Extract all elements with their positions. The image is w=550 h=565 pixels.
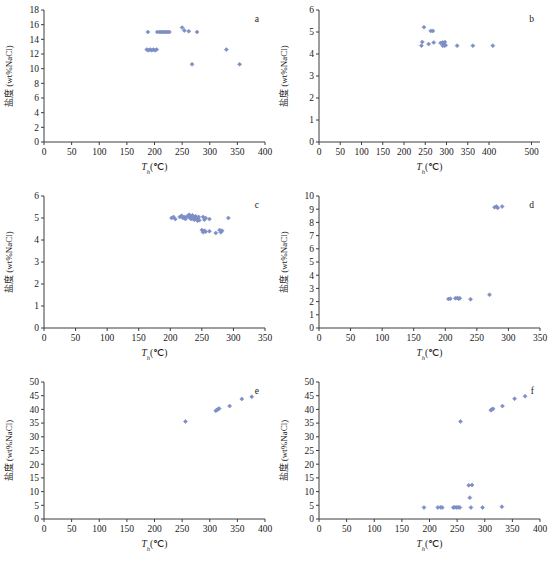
x-tick-label: 400 — [258, 147, 273, 157]
svg-text:Th(℃): Th(℃) — [142, 539, 168, 552]
y-axis-ticks-c: 0123456 — [34, 191, 44, 333]
x-tick-label: 250 — [470, 333, 485, 343]
y-tick-label: 3 — [309, 284, 314, 294]
scatter-plot-c: 0123456050100150200250300350Th(℃)盐度 (wt%… — [0, 186, 275, 372]
data-point — [420, 40, 424, 44]
x-tick-label: 150 — [120, 147, 135, 157]
x-axis-title-d: Th(℃) — [417, 348, 443, 361]
data-series-f — [422, 394, 527, 509]
y-tick-label: 4 — [309, 49, 314, 59]
chart-panel-f: 0510152025303540455005010015020025030035… — [275, 372, 550, 565]
x-tick-label: 50 — [346, 333, 356, 343]
chart-panel-b: 0123456050100150200250300350400500Th(℃)盐… — [275, 0, 550, 186]
y-tick-label: 45 — [305, 391, 315, 401]
panel-letter-c: c — [255, 200, 259, 210]
x-tick-label: 250 — [175, 524, 190, 534]
x-tick-label: 350 — [230, 524, 245, 534]
x-axis-title-b: Th(℃) — [417, 162, 443, 175]
x-tick-label: 100 — [92, 147, 107, 157]
x-axis-title-e: Th(℃) — [142, 539, 168, 552]
data-point — [238, 62, 242, 66]
data-point — [500, 505, 504, 509]
y-tick-label: 10 — [30, 487, 40, 497]
y-axis-title-d: 盐度 (wt%NaCl) — [278, 231, 289, 293]
plot-area-b: 0123456050100150200250300350400500Th(℃)盐… — [275, 0, 550, 186]
x-axis-title-c: Th(℃) — [142, 348, 168, 361]
y-tick-label: 50 — [30, 377, 40, 387]
x-tick-label: 200 — [163, 333, 178, 343]
y-tick-label: 8 — [309, 218, 314, 228]
x-tick-label: 300 — [226, 333, 241, 343]
x-tick-label: 0 — [42, 524, 47, 534]
y-tick-label: 9 — [309, 205, 314, 215]
y-tick-label: 7 — [309, 231, 314, 241]
data-point — [187, 29, 191, 33]
data-point — [500, 205, 504, 209]
scatter-plot-b: 0123456050100150200250300350400500Th(℃)盐… — [275, 0, 550, 186]
x-tick-label: 0 — [317, 333, 322, 343]
y-tick-label: 0 — [309, 323, 314, 333]
data-point — [469, 505, 473, 509]
data-point — [468, 496, 472, 500]
y-tick-label: 14 — [30, 35, 40, 45]
data-series-b — [419, 25, 494, 47]
y-tick-label: 45 — [30, 391, 40, 401]
x-tick-label: 250 — [418, 147, 433, 157]
y-axis-ticks-d: 012345678910 — [305, 191, 320, 333]
y-axis-title-f: 盐度 (wt%NaCl) — [278, 420, 289, 482]
x-tick-label: 100 — [100, 333, 115, 343]
panel-letter-b: b — [529, 14, 534, 24]
x-tick-label: 350 — [258, 333, 273, 343]
data-point — [250, 395, 254, 399]
scatter-plot-d: 012345678910050100150200250300350Th(℃)盐度… — [275, 186, 550, 372]
x-tick-label: 150 — [407, 333, 422, 343]
x-tick-label: 250 — [175, 147, 190, 157]
y-tick-label: 1 — [34, 301, 39, 311]
x-tick-label: 500 — [524, 147, 539, 157]
y-tick-label: 3 — [309, 71, 314, 81]
x-tick-label: 200 — [147, 147, 162, 157]
y-tick-label: 1 — [309, 310, 314, 320]
y-tick-label: 0 — [309, 514, 314, 524]
data-point — [190, 62, 194, 66]
x-tick-label: 50 — [67, 524, 77, 534]
x-tick-label: 50 — [336, 147, 346, 157]
y-tick-label: 3 — [34, 257, 39, 267]
chart-panel-e: 0510152025303540455005010015020025030035… — [0, 372, 275, 565]
data-point — [491, 44, 495, 48]
axes-d — [319, 196, 540, 328]
data-point — [432, 41, 436, 45]
y-tick-label: 12 — [30, 49, 40, 59]
x-axis-ticks-d: 050100150200250300350 — [317, 328, 548, 343]
x-tick-label: 350 — [461, 147, 476, 157]
scatter-plot-e: 0510152025303540455005010015020025030035… — [0, 372, 275, 565]
x-tick-label: 150 — [395, 524, 410, 534]
data-series-e — [183, 395, 253, 424]
x-axis-title-f: Th(℃) — [417, 539, 443, 552]
data-series-a — [145, 26, 242, 67]
y-tick-label: 6 — [309, 5, 314, 15]
y-tick-label: 40 — [30, 405, 40, 415]
x-axis-title-a: Th(℃) — [142, 162, 168, 175]
x-tick-label: 0 — [317, 147, 322, 157]
x-tick-label: 150 — [376, 147, 391, 157]
y-tick-label: 20 — [30, 460, 40, 470]
panel-letter-d: d — [529, 200, 534, 210]
y-tick-label: 0 — [34, 514, 39, 524]
x-tick-label: 400 — [533, 524, 548, 534]
y-axis-ticks-a: 024681012141618 — [30, 5, 45, 147]
y-tick-label: 0 — [309, 137, 314, 147]
data-point — [240, 397, 244, 401]
data-point — [422, 505, 426, 509]
y-axis-ticks-f: 05101520253035404550 — [305, 377, 320, 524]
data-point — [226, 216, 230, 220]
data-point — [427, 42, 431, 46]
y-tick-label: 30 — [305, 432, 315, 442]
x-tick-label: 200 — [438, 333, 453, 343]
y-tick-label: 10 — [305, 191, 315, 201]
x-tick-label: 350 — [505, 524, 520, 534]
x-axis-ticks-b: 050100150200250300350400500 — [317, 142, 539, 157]
y-axis-title-c: 盐度 (wt%NaCl) — [3, 231, 14, 293]
y-tick-label: 4 — [34, 108, 39, 118]
y-tick-label: 0 — [34, 323, 39, 333]
